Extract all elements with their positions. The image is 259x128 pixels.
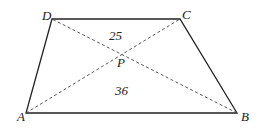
trapezoid-ABCD [26, 19, 237, 113]
area-label-bottom: 36 [114, 83, 129, 98]
vertex-label-c: C [182, 7, 191, 22]
diagonal-AC [26, 19, 180, 113]
vertex-label-b: B [241, 109, 249, 124]
trapezoid-diagram: A B C D P 25 36 [0, 0, 259, 128]
vertex-label-d: D [41, 8, 52, 23]
intersection-label-p: P [116, 55, 125, 70]
vertex-label-a: A [16, 109, 25, 124]
area-label-top: 25 [109, 28, 123, 43]
